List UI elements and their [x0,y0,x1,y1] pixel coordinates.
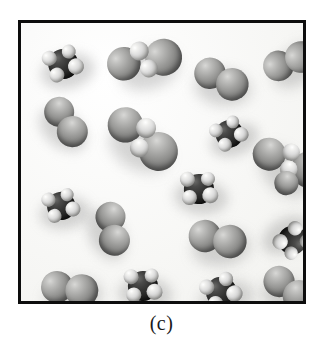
hydrogen-atom [125,286,141,302]
molecule-panel [18,20,306,304]
figure-caption: (c) [0,312,323,335]
hydrogen-atom [179,170,195,186]
hydrogen-atom [123,268,139,284]
figure-root: (c) [0,0,323,352]
